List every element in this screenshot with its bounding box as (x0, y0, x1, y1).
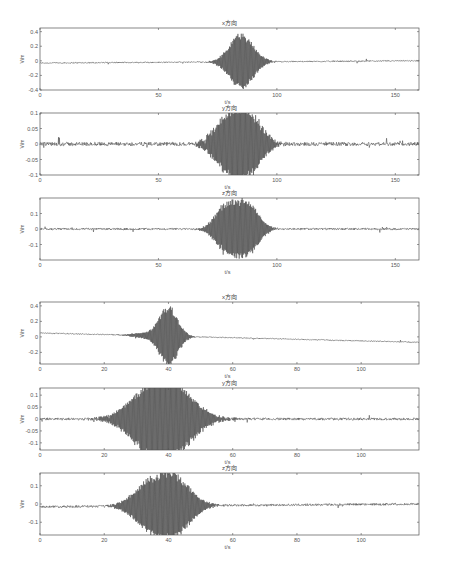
plot-panel-1: x方向0501001500.40.20-0.2-0.4t/sV/m (0, 10, 455, 105)
plot-panel-6: z方向0204060801000.10-0.1t/sV/m (0, 455, 455, 550)
y-tick-label: 0 (35, 58, 38, 64)
y-tick-label: 0.2 (30, 43, 38, 49)
y-tick-label: -0.1 (29, 440, 38, 446)
x-tick-label: 50 (155, 262, 161, 268)
y-tick-label: -0.05 (25, 428, 38, 434)
y-tick-label: 0.1 (30, 211, 38, 217)
y-tick-label: 0.1 (30, 110, 38, 116)
y-tick-label: 0.05 (27, 404, 38, 410)
y-axis-label: V/m (19, 225, 25, 234)
signal-trace (40, 306, 419, 364)
y-tick-label: 0 (35, 416, 38, 422)
x-tick-label: 0 (38, 262, 41, 268)
signal-trace (40, 388, 419, 450)
y-tick-label: 0.4 (30, 303, 38, 309)
y-axis-label: V/m (19, 140, 25, 149)
y-tick-label: 0.2 (30, 318, 38, 324)
plot-title: x方向 (222, 293, 237, 301)
x-tick-label: 0 (38, 537, 41, 543)
y-tick-label: -0.1 (29, 519, 38, 525)
plot-panel-3: z方向0501001500.10-0.1t/sV/m (0, 180, 455, 275)
y-tick-label: -0.4 (29, 87, 38, 93)
plot-title: y方向 (222, 104, 237, 112)
signal-trace (40, 473, 419, 535)
plot-title: x方向 (222, 19, 237, 27)
y-tick-label: 0.1 (30, 392, 38, 398)
y-tick-label: 0 (35, 226, 38, 232)
plot-title: z方向 (222, 189, 237, 197)
y-tick-label: 0.1 (30, 483, 38, 489)
x-tick-label: 60 (230, 537, 236, 543)
y-tick-label: 0 (35, 334, 38, 340)
plot-panel-4: x方向0204060801000.40.20-0.2t/sV/m (0, 284, 455, 379)
y-axis-label: V/m (19, 55, 25, 64)
y-tick-label: -0.05 (25, 157, 38, 163)
y-tick-label: 0 (35, 141, 38, 147)
y-axis-label: V/m (19, 500, 25, 509)
plot-title: y方向 (222, 379, 237, 387)
plot-panel-2: y方向0501001500.10.050-0.05-0.1t/sV/m (0, 95, 455, 190)
y-tick-label: -0.1 (29, 172, 38, 178)
y-axis-label: V/m (19, 329, 25, 338)
axes-box (40, 302, 419, 364)
y-tick-label: 0.05 (27, 126, 38, 132)
y-tick-label: -0.2 (29, 349, 38, 355)
plot-panel-5: y方向0204060801000.10.050-0.05-0.1t/sV/m (0, 370, 455, 465)
x-tick-label: 40 (165, 537, 171, 543)
y-tick-label: -0.1 (29, 242, 38, 248)
x-axis-label: t/s (225, 544, 231, 550)
x-tick-label: 80 (294, 537, 300, 543)
y-tick-label: 0.4 (30, 29, 38, 35)
y-tick-label: -0.2 (29, 72, 38, 78)
signal-trace (40, 34, 419, 89)
x-tick-label: 20 (101, 537, 107, 543)
signal-trace (40, 198, 419, 259)
y-tick-label: 0 (35, 501, 38, 507)
signal-trace (40, 113, 419, 175)
plot-title: z方向 (222, 464, 237, 472)
x-axis-label: t/s (225, 269, 231, 275)
x-tick-label: 100 (272, 262, 281, 268)
x-tick-label: 100 (357, 537, 366, 543)
y-axis-label: V/m (19, 415, 25, 424)
x-tick-label: 150 (391, 262, 400, 268)
